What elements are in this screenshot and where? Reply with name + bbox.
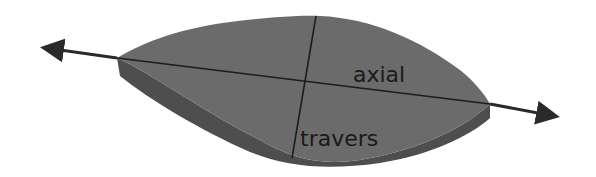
axial-arrow-left: [46, 48, 117, 58]
axial-arrow-right: [490, 104, 554, 116]
leaf-axes-diagram: axial travers: [0, 0, 596, 177]
transverse-label: travers: [300, 126, 378, 151]
axial-label: axial: [353, 62, 405, 87]
